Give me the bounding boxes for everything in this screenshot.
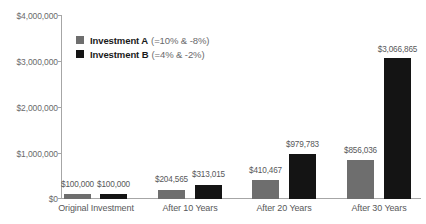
y-axis-tick-label: $3,000,000: [0, 57, 58, 67]
legend-label-series-b: Investment B: [90, 49, 148, 60]
bar-value-label: $100,000: [61, 180, 94, 189]
legend-swatch-icon-series-a: [76, 36, 84, 44]
x-axis-category-label-after-10-years: After 10 Years: [162, 203, 217, 213]
x-axis-category-label-after-30-years: After 30 Years: [351, 203, 406, 213]
y-axis-tick-label: $2,000,000: [0, 103, 58, 113]
bar-value-label: $100,000: [97, 180, 130, 189]
plot-area: $100,000 $100,000 $204,565 $313,015 $410…: [62, 15, 421, 199]
legend-label-series-a: Investment A: [90, 35, 148, 46]
bar-series-b-after-30-years: [384, 58, 411, 199]
bar-value-label: $856,036: [344, 146, 377, 155]
bar-value-label: $204,565: [155, 175, 188, 184]
legend-detail-series-a: (=10% & -8%): [151, 35, 209, 46]
bar-series-a-original-investment: [64, 194, 91, 199]
bar-value-label: $979,783: [286, 140, 319, 149]
legend: Investment A (=10% & -8%) Investment B (…: [76, 33, 209, 61]
legend-item-investment-b: Investment B (=4% & -2%): [76, 47, 209, 61]
legend-detail-series-b: (=4% & -2%): [151, 49, 204, 60]
x-axis-category-label-after-20-years: After 20 Years: [256, 203, 311, 213]
x-axis-category-label-original-investment: Original Investment: [58, 203, 134, 213]
bar-chart: $4,000,000 $3,000,000 $2,000,000 $1,000,…: [0, 0, 426, 224]
bar-series-a-after-10-years: [158, 190, 185, 199]
bar-series-b-after-20-years: [289, 154, 316, 199]
bar-value-label: $3,066,865: [378, 45, 417, 54]
y-axis-tick-label: $1,000,000: [0, 149, 58, 159]
y-axis-tick-label: $4,000,000: [0, 11, 58, 21]
legend-swatch-icon-series-b: [76, 50, 84, 58]
bar-series-b-original-investment: [100, 194, 127, 199]
bar-series-b-after-10-years: [195, 185, 222, 199]
bar-series-a-after-20-years: [252, 180, 279, 199]
y-axis-tick-label: $0: [0, 194, 58, 204]
bar-value-label: $313,015: [192, 170, 225, 179]
bar-value-label: $410,467: [249, 166, 282, 175]
legend-item-investment-a: Investment A (=10% & -8%): [76, 33, 209, 47]
bar-series-a-after-30-years: [347, 160, 374, 199]
